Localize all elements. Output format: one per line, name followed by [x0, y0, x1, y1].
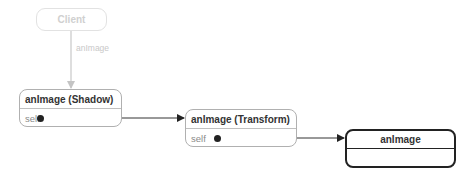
client-link-label: anImage [76, 43, 109, 53]
transform-object-box[interactable]: anImage (Transform) self [185, 109, 297, 147]
client-box[interactable]: Client [36, 8, 107, 31]
client-label: Client [37, 14, 106, 25]
shadow-divider [20, 108, 121, 109]
transform-object-title: anImage (Transform) [191, 114, 296, 125]
target-object-title: anImage [347, 134, 454, 145]
transform-self-field: self [191, 133, 206, 144]
target-object-box[interactable]: anImage [345, 129, 456, 168]
shadow-object-box[interactable]: anImage (Shadow) self [19, 89, 122, 127]
shadow-object-title: anImage (Shadow) [25, 94, 121, 105]
transform-divider [186, 128, 296, 129]
target-divider [347, 148, 454, 149]
transform-self-pointer-dot[interactable] [214, 135, 221, 142]
shadow-self-pointer-dot[interactable] [37, 115, 44, 122]
